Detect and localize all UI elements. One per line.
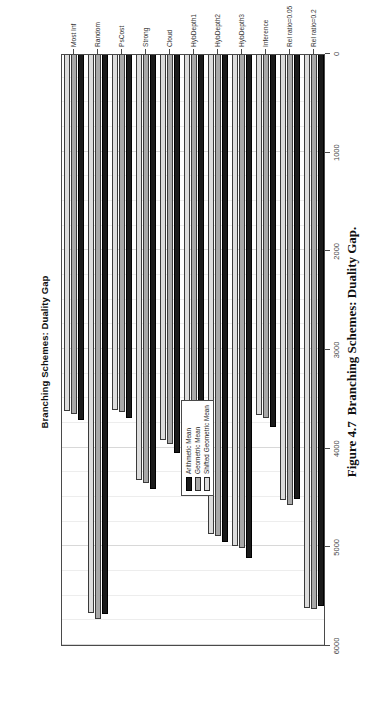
- legend-swatch: [194, 477, 200, 491]
- category-axis-label: HybDepth1: [189, 14, 196, 47]
- legend-item: Arithmetic Mean: [185, 405, 192, 491]
- category-axis-tick: [265, 49, 266, 54]
- bar-group: [182, 55, 206, 645]
- bar-chart-figure: Branching Schemes: Duality Gap 010002000…: [39, 32, 359, 672]
- bar: [256, 54, 262, 415]
- legend-swatch: [185, 477, 191, 491]
- category-axis-tick: [121, 49, 122, 54]
- chart-legend: Arithmetic MeanGeometric MeanShifted Geo…: [181, 400, 214, 496]
- legend-label: Arithmetic Mean: [185, 428, 192, 474]
- bar: [64, 54, 70, 411]
- bar-group: [62, 55, 86, 645]
- category-axis-tick: [241, 49, 242, 54]
- category-axis-label: HybDepth2: [213, 14, 220, 47]
- plot-area: [61, 54, 325, 646]
- value-axis-tick: [325, 546, 330, 547]
- bar-group: [302, 55, 325, 645]
- bar-group: [134, 55, 158, 645]
- category-axis-label: Cloud: [165, 30, 172, 47]
- bar: [125, 54, 131, 418]
- legend-item: Shifted Geometric Mean: [203, 405, 210, 491]
- value-axis-tick: [325, 448, 330, 449]
- bar: [142, 54, 148, 483]
- bar: [112, 54, 118, 410]
- bar-group: [158, 55, 182, 645]
- category-axis-label: Rel ratio=0.05: [285, 6, 292, 47]
- legend-swatch: [203, 477, 209, 491]
- category-axis-tick: [193, 49, 194, 54]
- bar: [280, 54, 286, 500]
- chart-title: Branching Schemes: Duality Gap: [39, 32, 50, 672]
- legend-label: Shifted Geometric Mean: [203, 405, 210, 474]
- category-axis-tick: [217, 49, 218, 54]
- bar: [304, 54, 310, 608]
- value-axis-label: 3000: [332, 342, 341, 359]
- bar: [184, 54, 190, 410]
- category-axis-label: PsCost: [117, 26, 124, 47]
- bar: [293, 54, 299, 499]
- bar: [94, 54, 100, 619]
- bar: [149, 54, 155, 489]
- bar: [286, 54, 292, 505]
- category-axis-tick: [313, 49, 314, 54]
- category-axis: Most InfRandomPsCostStrongCloudHybDepth1…: [61, 32, 325, 54]
- category-axis-label: Rel ratio=0.2: [309, 9, 316, 47]
- value-axis-label: 1000: [332, 144, 341, 161]
- bar-group: [278, 55, 302, 645]
- legend-label: Geometric Mean: [194, 427, 201, 474]
- bar: [136, 54, 142, 480]
- rotated-figure-wrapper: Branching Schemes: Duality Gap 010002000…: [0, 0, 385, 704]
- bar-group: [206, 55, 230, 645]
- bar: [245, 54, 251, 558]
- value-axis-tick: [325, 349, 330, 350]
- bar-group: [230, 55, 254, 645]
- value-axis-label: 2000: [332, 243, 341, 260]
- value-axis-tick: [325, 53, 330, 54]
- category-axis-tick: [169, 49, 170, 54]
- bar: [77, 54, 83, 420]
- bar: [262, 54, 268, 418]
- bar: [173, 54, 179, 453]
- value-axis-label: 6000: [332, 638, 341, 655]
- category-axis-label: Most Inf: [69, 24, 76, 47]
- value-axis-tick: [325, 645, 330, 646]
- bar-group: [254, 55, 278, 645]
- bar: [190, 54, 196, 412]
- bar: [214, 54, 220, 536]
- value-axis-label: 4000: [332, 440, 341, 457]
- figure-page: Branching Schemes: Duality Gap 010002000…: [0, 0, 385, 704]
- bar-group: [110, 55, 134, 645]
- category-axis-label: Strong: [141, 28, 148, 47]
- category-axis-tick: [289, 49, 290, 54]
- bar: [118, 54, 124, 412]
- bar: [88, 54, 94, 613]
- value-axis-tick: [325, 152, 330, 153]
- bar: [232, 54, 238, 546]
- bar: [70, 54, 76, 414]
- bar: [269, 54, 275, 427]
- bar: [238, 54, 244, 548]
- legend-item: Geometric Mean: [194, 405, 201, 491]
- value-axis-label: 5000: [332, 539, 341, 556]
- bar: [197, 54, 203, 418]
- category-axis-label: Inference: [261, 20, 268, 48]
- bar: [166, 54, 172, 444]
- bar: [221, 54, 227, 542]
- category-axis-tick: [97, 49, 98, 54]
- value-axis: 0100020003000400050006000: [325, 54, 355, 646]
- bar: [310, 54, 316, 609]
- category-axis-label: HybDepth3: [237, 14, 244, 47]
- bar: [160, 54, 166, 440]
- bar: [317, 54, 323, 606]
- bar-group: [86, 55, 110, 645]
- category-axis-tick: [145, 49, 146, 54]
- category-axis-label: Random: [93, 22, 100, 47]
- value-axis-label: 0: [332, 52, 341, 56]
- bar: [101, 54, 107, 614]
- value-axis-tick: [325, 250, 330, 251]
- category-axis-tick: [73, 49, 74, 54]
